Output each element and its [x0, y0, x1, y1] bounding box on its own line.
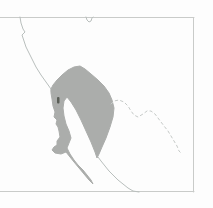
range-dark-mark [57, 97, 60, 104]
range-map-svg [0, 0, 213, 208]
pacific-coastline [20, 17, 51, 89]
range-area [51, 66, 114, 184]
range-map [0, 0, 213, 208]
mainland-coastline [98, 157, 139, 192]
state-border-dashed [111, 100, 181, 153]
